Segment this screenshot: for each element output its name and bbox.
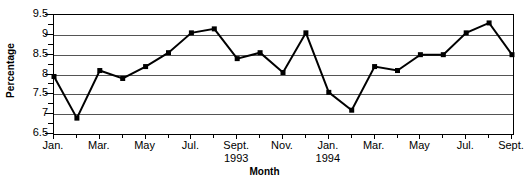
x-axis-tick-label: Jan.1994	[316, 140, 340, 164]
data-point-marker	[303, 30, 308, 35]
x-axis-tick-month: Jul.	[182, 139, 199, 151]
data-point-marker	[258, 50, 263, 55]
x-axis-tick-label: Mar.	[88, 140, 109, 151]
x-axis-tick-month: Sept.	[498, 139, 524, 151]
x-axis-tick	[259, 134, 260, 138]
x-axis-tick-label: May	[134, 140, 155, 151]
plot-area	[53, 14, 514, 135]
x-axis-tick	[442, 134, 443, 138]
x-axis-tick-label: Jul.	[457, 140, 474, 151]
x-axis-tick	[122, 134, 123, 138]
x-axis-tick	[305, 134, 306, 138]
y-axis-title: Percentage	[0, 0, 20, 140]
x-axis-tick-month: Mar.	[363, 139, 384, 151]
data-point-marker	[235, 56, 240, 61]
x-axis-tick-month: Sept.	[223, 139, 249, 151]
y-axis-title-text: Percentage	[5, 43, 16, 98]
data-point-marker	[281, 70, 286, 75]
x-axis-tick-year: 1994	[316, 153, 340, 164]
x-axis-tick-month: May	[409, 139, 430, 151]
x-axis-tick	[213, 134, 214, 138]
x-axis-tick-label: Sept.	[498, 140, 524, 151]
data-point-marker	[74, 116, 79, 121]
data-point-marker	[166, 50, 171, 55]
x-axis-tick-month: Jan.	[43, 139, 64, 151]
data-point-marker	[212, 26, 217, 31]
x-axis-tick-label: Mar.	[363, 140, 384, 151]
x-axis-tick-label: Jul.	[182, 140, 199, 151]
x-axis-tick-month: Jan.	[317, 139, 338, 151]
data-point-marker	[52, 74, 57, 79]
x-axis-tick-label: Sept.1993	[223, 140, 249, 164]
data-point-marker	[395, 68, 400, 73]
x-axis-title: Month	[0, 166, 529, 177]
x-axis-tick	[351, 134, 352, 138]
data-point-marker	[418, 52, 423, 57]
unemployment-rate-line-chart: Percentage 9.598.587.576.5 Jan.Mar.MayJu…	[0, 0, 529, 185]
data-point-marker	[349, 108, 354, 113]
data-point-marker	[510, 52, 515, 57]
x-axis-tick-month: May	[134, 139, 155, 151]
data-point-marker	[97, 68, 102, 73]
x-axis-tick	[397, 134, 398, 138]
data-series	[54, 15, 513, 134]
data-point-marker	[143, 64, 148, 69]
x-axis-tick	[488, 134, 489, 138]
x-axis-tick-month: Jul.	[457, 139, 474, 151]
data-point-marker	[372, 64, 377, 69]
x-axis-tick-year: 1993	[223, 153, 249, 164]
x-axis-tick-month: Nov.	[271, 139, 293, 151]
x-axis-tick-label: Nov.	[271, 140, 293, 151]
x-axis-tick-label: Jan.	[43, 140, 64, 151]
x-axis-tick-label: May	[409, 140, 430, 151]
x-axis-tick	[76, 134, 77, 138]
data-point-marker	[189, 30, 194, 35]
data-point-marker	[120, 76, 125, 81]
x-axis-tick-month: Mar.	[88, 139, 109, 151]
data-point-marker	[487, 20, 492, 25]
data-point-marker	[464, 30, 469, 35]
data-point-marker	[441, 52, 446, 57]
data-point-marker	[326, 90, 331, 95]
x-axis-tick	[168, 134, 169, 138]
